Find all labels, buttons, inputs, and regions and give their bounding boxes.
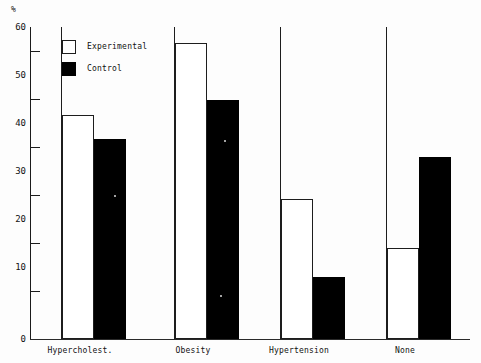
x-category-label-hypertension: Hypertension xyxy=(251,346,347,355)
x-category-label-obesity: Obesity xyxy=(145,346,241,355)
scan-speck-icon xyxy=(114,195,116,197)
legend-item-control[interactable]: Control xyxy=(62,60,147,77)
legend-label-control: Control xyxy=(87,64,122,73)
y-tick-label-10: 10 xyxy=(15,263,26,272)
bar-none-control[interactable] xyxy=(419,157,451,339)
bar-hypercholest-control[interactable] xyxy=(94,139,126,339)
x-axis-line xyxy=(30,339,470,340)
y-tick-mark-20 xyxy=(31,243,40,244)
y-tick-label-60: 60 xyxy=(15,23,26,32)
y-tick-mark-10 xyxy=(31,291,40,292)
legend-swatch-control-icon xyxy=(62,62,76,76)
y-tick-mark-40 xyxy=(31,147,40,148)
y-tick-label-20: 20 xyxy=(15,215,26,224)
legend-label-experimental: Experimental xyxy=(87,42,147,51)
y-tick-label-0: 0 xyxy=(21,335,26,344)
y-axis-line xyxy=(30,27,31,340)
y-tick-mark-50 xyxy=(31,99,40,100)
y-tick-mark-60 xyxy=(31,51,40,52)
bar-hypertension-experimental[interactable] xyxy=(281,199,313,339)
y-tick-label-40: 40 xyxy=(15,119,26,128)
legend-item-experimental[interactable]: Experimental xyxy=(62,38,147,55)
y-axis-unit-label: % xyxy=(11,5,16,14)
bar-hypercholest-experimental[interactable] xyxy=(62,115,94,339)
scan-speck-icon xyxy=(220,295,222,297)
x-category-label-hypercholest: Hypercholest. xyxy=(32,346,128,355)
chart-page: 60 50 40 30 20 10 0 % xyxy=(0,0,481,363)
bar-none-experimental[interactable] xyxy=(387,248,419,339)
legend: Experimental Control xyxy=(62,38,147,82)
y-tick-label-30: 30 xyxy=(15,167,26,176)
scan-speck-icon xyxy=(224,140,226,142)
x-category-label-none: None xyxy=(357,346,453,355)
bar-obesity-control[interactable] xyxy=(207,100,239,339)
y-tick-mark-30 xyxy=(31,195,40,196)
legend-swatch-experimental-icon xyxy=(62,40,76,54)
bar-hypertension-control[interactable] xyxy=(313,277,345,339)
y-axis-labels: 60 50 40 30 20 10 0 xyxy=(0,27,26,340)
y-tick-label-50: 50 xyxy=(15,71,26,80)
bar-obesity-experimental[interactable] xyxy=(175,43,207,339)
